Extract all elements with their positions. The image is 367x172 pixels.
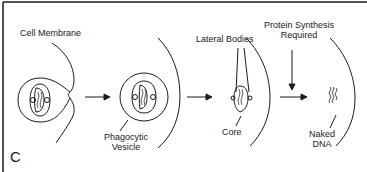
cell-membrane-curve <box>52 43 74 143</box>
dna-pointer <box>330 115 336 128</box>
arrow-2-head <box>206 94 212 100</box>
stage1-engulfment <box>18 43 74 143</box>
lateral-body-right-3 <box>248 96 252 100</box>
protein-synthesis-arrow-head <box>289 84 295 90</box>
label-naked-line2: DNA <box>304 139 340 149</box>
label-protein-line2: Required <box>258 30 340 40</box>
label-phagocytic-line2: Vesicle <box>98 142 154 152</box>
label-naked-dna: Naked DNA <box>304 129 340 149</box>
lateral-bodies-pointer-1 <box>236 48 238 92</box>
dna-strands-2 <box>141 89 146 105</box>
virus-uncoating-diagram: Cell Membrane Phagocytic Vesicle Lateral… <box>0 0 367 172</box>
label-protein-line1: Protein Synthesis <box>258 20 340 30</box>
vesicle-pointer <box>120 120 128 131</box>
lateral-body-right-2 <box>151 95 156 100</box>
dna-strands-4 <box>329 87 337 103</box>
phagocytic-vesicle-circle <box>120 73 168 121</box>
lateral-body-right <box>45 98 50 103</box>
virion-core-2 <box>139 85 147 109</box>
label-cell-membrane: Cell Membrane <box>20 28 81 38</box>
virion-outer-2 <box>132 81 156 113</box>
label-protein-synthesis: Protein Synthesis Required <box>258 20 340 40</box>
label-phagocytic-vesicle: Phagocytic Vesicle <box>98 132 154 152</box>
lateral-body-left-2 <box>133 95 138 100</box>
arrow-3-head <box>301 94 307 100</box>
label-core: Core <box>222 127 242 137</box>
label-lateral-bodies: Lateral Bodies <box>196 34 254 44</box>
label-phagocytic-line1: Phagocytic <box>98 132 154 142</box>
panel-label: C <box>10 148 21 165</box>
dna-strands-1 <box>37 92 42 108</box>
core-pointer <box>236 116 241 126</box>
cell-membrane-arc-2 <box>158 38 180 148</box>
label-naked-line1: Naked <box>304 129 340 139</box>
dna-strands-3 <box>238 89 243 105</box>
arrow-1-head <box>104 94 110 100</box>
cell-membrane-arc-3 <box>246 38 270 146</box>
lateral-bodies-pointer-2 <box>244 48 249 92</box>
